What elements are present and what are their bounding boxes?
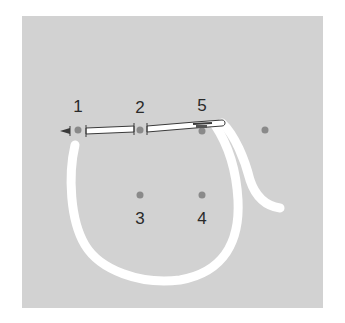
hole-dot-5 [199,128,206,135]
point-label-1: 1 [73,97,82,116]
stitch-diagram: 1 2 5 3 4 [0,0,345,323]
diagram-svg: 1 2 5 3 4 [0,0,345,323]
needle-eye-thread [196,125,207,128]
hole-dot-1 [75,127,82,134]
hole-dot-3 [137,192,144,199]
point-label-2: 2 [135,98,144,117]
point-label-3: 3 [135,209,144,228]
hole-dot-extra [262,127,269,134]
point-label-5: 5 [197,96,206,115]
needle-eye [193,123,212,124]
fabric-square [22,16,323,308]
needle-shaft-front [86,126,134,134]
point-label-4: 4 [197,209,206,228]
hole-dot-2 [137,127,144,134]
hole-dot-4 [199,192,206,199]
